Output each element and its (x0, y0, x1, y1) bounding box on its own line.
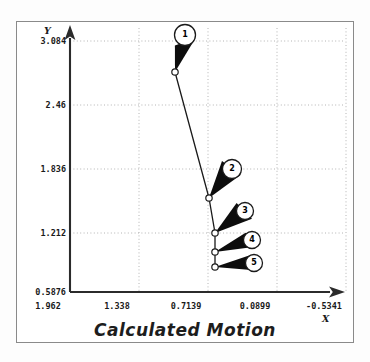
data-point-1 (172, 69, 178, 75)
marker-label-1: 1 (178, 28, 192, 42)
marker-label-5: 5 (247, 256, 261, 270)
chart-title: Calculated Motion (0, 320, 370, 340)
gridlines-vertical (139, 28, 346, 292)
trajectory-path (175, 72, 215, 267)
y-axis-arrowhead (65, 25, 76, 40)
data-point-4 (212, 249, 218, 255)
x-tick-label-4: -0.5341 (298, 301, 350, 311)
y-tick-label-4: 0.5876 (14, 287, 66, 297)
data-point-2 (206, 195, 212, 201)
y-tick-label-1: 2.46 (14, 100, 66, 110)
marker-label-2: 2 (225, 162, 239, 176)
x-tick-label-1: 1.338 (94, 301, 140, 311)
gridlines-horizontal (70, 41, 344, 233)
x-tick-label-3: 0.0899 (232, 301, 278, 311)
y-tick-label-2: 1.836 (14, 164, 66, 174)
x-tick-label-2: 0.7139 (163, 301, 209, 311)
y-axis-label: Y (44, 25, 51, 36)
y-tick-label-3: 1.212 (14, 228, 66, 238)
data-point-3 (212, 230, 218, 236)
marker-label-3: 3 (238, 204, 252, 218)
x-axis-arrowhead (329, 286, 345, 297)
data-point-markers (172, 69, 218, 270)
figure-canvas: 3.084 2.46 1.836 1.212 0.5876 1.962 1.33… (0, 0, 370, 362)
marker-label-4: 4 (245, 233, 259, 247)
data-point-5 (212, 264, 218, 270)
x-tick-label-0: 1.962 (25, 301, 71, 311)
y-tick-label-0: 3.084 (14, 36, 66, 46)
